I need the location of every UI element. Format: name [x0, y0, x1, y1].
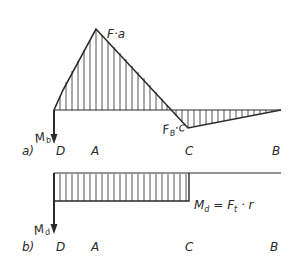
point-label-b: B: [272, 144, 280, 158]
point-label-a: A: [90, 144, 99, 158]
torsion-moment-diagram: Md = Ft · r Md b) D A C B: [22, 173, 281, 254]
valley-label: FB·c: [161, 120, 186, 139]
bending-moment-diagram: F·a FB·c Mb a) D A C B: [22, 27, 281, 158]
torsion-outline: [54, 173, 189, 201]
diagram-b-tag: b): [22, 240, 34, 254]
point-label-c: C: [185, 144, 194, 158]
point-label-c: C: [185, 240, 194, 254]
torsion-hatch: [60, 174, 186, 201]
moment-label-md: Md: [32, 220, 52, 240]
moment-curve-a: [54, 29, 281, 128]
negative-hatch: [176, 110, 272, 128]
torsion-equation: Md = Ft · r: [194, 198, 255, 214]
point-label-b: B: [270, 240, 278, 254]
positive-hatch: [60, 30, 167, 110]
point-label-d: D: [56, 240, 65, 254]
point-label-a: A: [90, 240, 99, 254]
peak-label: F·a: [107, 27, 125, 41]
moment-label-mb: Mb: [33, 128, 52, 147]
bending-torsion-moment-diagram: F·a FB·c Mb a) D A C B: [0, 0, 296, 260]
point-label-d: D: [56, 144, 65, 158]
arrow-down-icon: [51, 224, 58, 234]
diagram-a-tag: a): [22, 144, 34, 158]
